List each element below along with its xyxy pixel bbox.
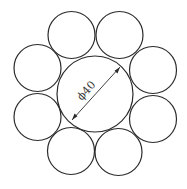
outer-circle-left-upper — [14, 45, 61, 92]
circle-packing-diagram: ϕ40 — [0, 0, 187, 189]
outer-circle-right-lower — [130, 96, 177, 143]
diameter-dimension: ϕ40 — [72, 67, 120, 120]
outer-circles — [14, 12, 177, 176]
outer-circle-left-lower — [14, 94, 61, 141]
outer-circle-bottom-right — [95, 129, 142, 176]
outer-circle-right-upper — [130, 47, 177, 94]
outer-circle-top-left — [48, 12, 95, 59]
diameter-label: ϕ40 — [74, 78, 98, 103]
outer-circle-bottom-left — [48, 128, 95, 175]
outer-circle-top-right — [96, 12, 143, 59]
